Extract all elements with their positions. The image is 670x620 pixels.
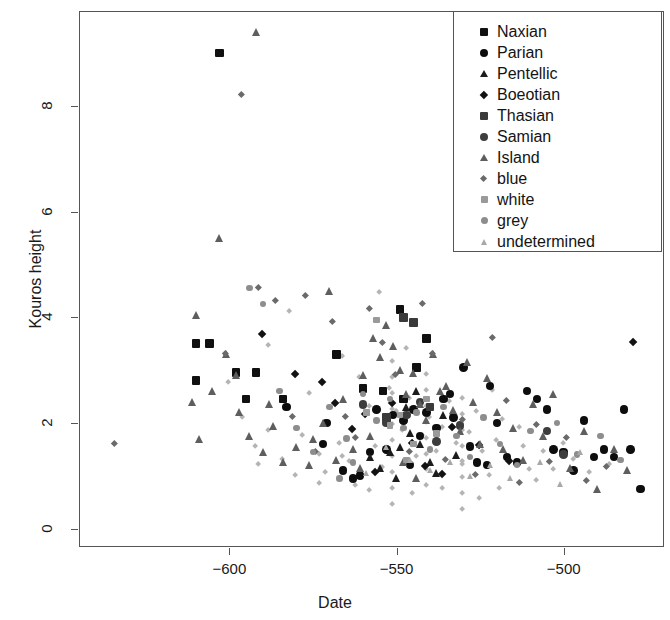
marker-triangle (537, 459, 543, 465)
marker-triangle (416, 440, 424, 448)
marker-triangle (487, 462, 493, 468)
marker-diamond (480, 90, 488, 98)
marker-triangle (467, 473, 473, 479)
marker-square (397, 412, 404, 419)
marker-triangle (232, 371, 240, 379)
marker-triangle (549, 390, 557, 398)
legend-item-undetermined[interactable]: undetermined (454, 231, 661, 252)
marker-diamond (520, 443, 526, 449)
marker-triangle (449, 406, 457, 414)
marker-circle (549, 445, 558, 454)
marker-circle (617, 457, 624, 464)
y-axis-title: Kouros height (27, 219, 45, 339)
marker-triangle (529, 400, 537, 408)
marker-diamond (480, 175, 487, 182)
marker-diamond (366, 305, 373, 312)
legend-marker-icon (471, 133, 497, 141)
marker-triangle (539, 432, 547, 440)
marker-triangle (422, 416, 430, 424)
marker-square (433, 430, 440, 437)
legend-item-boeotian[interactable]: Boeotian (454, 84, 661, 105)
legend-item-naxian[interactable]: Naxian (454, 21, 661, 42)
marker-circle (402, 411, 411, 420)
marker-diamond (433, 448, 439, 454)
legend-item-white[interactable]: white (454, 189, 661, 210)
legend-marker-icon (471, 70, 497, 77)
marker-circle (543, 405, 552, 414)
marker-diamond (423, 371, 429, 377)
marker-diamond (329, 318, 336, 325)
legend-item-thasian[interactable]: Thasian (454, 105, 661, 126)
legend-marker-icon (471, 239, 497, 245)
marker-circle (326, 404, 333, 411)
marker-diamond (255, 284, 262, 291)
marker-diamond (376, 290, 382, 296)
marker-circle (282, 403, 291, 412)
legend-item-blue[interactable]: blue (454, 168, 661, 189)
marker-diamond (503, 398, 510, 405)
legend-item-samian[interactable]: Samian (454, 126, 661, 147)
marker-triangle (483, 374, 491, 382)
legend-item-parian[interactable]: Parian (454, 42, 661, 63)
marker-circle (413, 409, 420, 416)
marker-diamond (322, 469, 328, 475)
x-tick-label: −500 (524, 560, 604, 577)
marker-square (192, 339, 201, 348)
legend-item-pentellic[interactable]: Pentellic (454, 63, 661, 84)
marker-diamond (266, 342, 272, 348)
legend-item-grey[interactable]: grey (454, 210, 661, 231)
marker-triangle (427, 467, 433, 473)
marker-triangle (406, 429, 414, 437)
marker-diamond (423, 387, 429, 393)
marker-square (410, 441, 417, 448)
marker-triangle (447, 459, 453, 465)
marker-square (252, 368, 261, 377)
marker-diamond (489, 334, 496, 341)
legend-item-island[interactable]: Island (454, 147, 661, 168)
x-tick (397, 548, 398, 555)
marker-triangle (452, 451, 460, 459)
marker-circle (493, 419, 502, 428)
marker-circle (473, 458, 482, 467)
marker-circle (600, 445, 609, 454)
marker-square (426, 403, 435, 412)
marker-triangle (493, 408, 501, 416)
marker-triangle (325, 287, 333, 295)
marker-circle (480, 133, 488, 141)
marker-triangle (265, 400, 273, 408)
marker-triangle (363, 470, 369, 476)
legend-item-label: grey (497, 213, 528, 229)
legend-item-label: Naxian (497, 24, 547, 40)
marker-diamond (389, 437, 395, 443)
marker-triangle (481, 239, 487, 245)
marker-diamond (540, 448, 546, 454)
marker-circle (480, 414, 487, 421)
marker-circle (319, 440, 328, 449)
legend-marker-icon (471, 176, 497, 181)
marker-triangle (208, 387, 216, 395)
marker-triangle (309, 435, 317, 443)
marker-triangle (259, 448, 267, 456)
marker-circle (636, 485, 645, 494)
marker-diamond (439, 485, 445, 491)
legend-marker-icon (471, 217, 497, 224)
marker-circle (597, 433, 604, 440)
marker-diamond (366, 488, 372, 494)
marker-diamond (516, 479, 523, 486)
marker-triangle (412, 474, 420, 482)
marker-square (192, 376, 201, 385)
marker-square (332, 350, 341, 359)
legend-marker-icon (471, 112, 497, 120)
legend-item-label: Island (497, 150, 540, 166)
marker-triangle (442, 382, 450, 390)
x-tick (229, 548, 230, 555)
marker-circle (559, 450, 568, 459)
marker-triangle (369, 334, 377, 342)
legend-item-label: blue (497, 171, 527, 187)
y-tick (71, 423, 78, 424)
marker-square (481, 196, 488, 203)
legend-item-label: Thasian (497, 108, 554, 124)
marker-diamond (389, 485, 395, 491)
marker-triangle (269, 422, 277, 430)
x-axis-title: Date (0, 594, 670, 612)
